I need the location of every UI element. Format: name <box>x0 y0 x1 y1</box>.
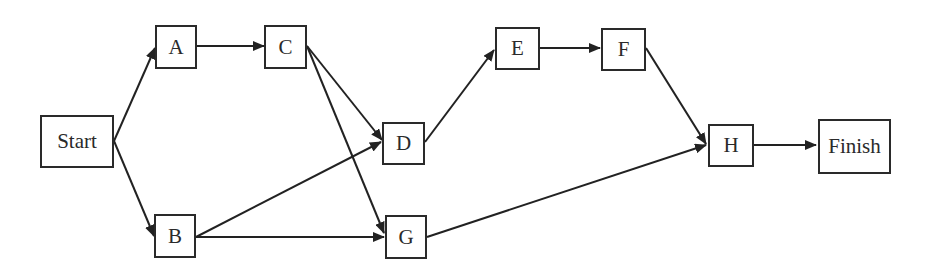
edges-layer <box>0 0 928 275</box>
node-g: G <box>385 215 427 259</box>
node-label: D <box>396 131 411 156</box>
node-label: C <box>278 35 292 60</box>
node-finish: Finish <box>818 119 891 174</box>
node-label: Finish <box>828 134 881 159</box>
node-f: F <box>601 28 646 71</box>
node-label: A <box>168 35 183 60</box>
edge-g-h <box>427 145 706 237</box>
node-h: H <box>708 124 754 167</box>
node-label: E <box>511 36 524 61</box>
node-label: Start <box>57 129 97 154</box>
edge-c-g <box>307 46 384 233</box>
node-c: C <box>264 25 307 69</box>
node-label: H <box>723 133 738 158</box>
node-label: F <box>618 37 630 62</box>
node-label: G <box>398 225 413 250</box>
edge-c-d <box>307 46 382 140</box>
edge-b-d <box>196 142 381 237</box>
edge-start-b <box>114 141 154 236</box>
node-e: E <box>495 27 540 70</box>
edge-f-h <box>646 48 706 144</box>
node-start: Start <box>40 115 114 168</box>
node-d: D <box>382 122 425 165</box>
node-a: A <box>155 25 197 69</box>
edge-d-e <box>425 50 494 142</box>
node-b: B <box>154 214 196 258</box>
edge-start-a <box>114 48 155 141</box>
node-label: B <box>168 224 182 249</box>
